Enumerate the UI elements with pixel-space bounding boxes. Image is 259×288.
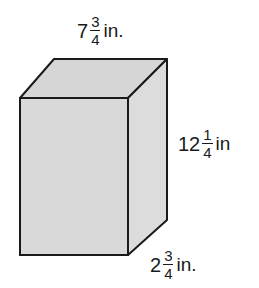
depth-denominator: 4 [164,265,172,281]
height-fraction: 1 4 [202,127,212,160]
width-unit: in. [103,21,123,40]
height-numerator: 1 [202,127,212,144]
width-numerator: 3 [90,14,100,31]
depth-label: 2 3 4 in. [150,248,197,281]
height-denominator: 4 [203,144,211,160]
height-label: 12 1 4 in [178,127,230,160]
width-fraction: 3 4 [90,14,100,47]
width-whole: 7 [77,21,88,41]
depth-whole: 2 [150,255,161,275]
prism-front-face [20,98,128,255]
depth-unit: in. [176,255,196,274]
depth-numerator: 3 [163,248,173,265]
width-label: 7 3 4 in. [77,14,124,47]
width-denominator: 4 [91,31,99,47]
height-whole: 12 [178,134,200,154]
height-unit: in [216,134,231,153]
depth-fraction: 3 4 [163,248,173,281]
